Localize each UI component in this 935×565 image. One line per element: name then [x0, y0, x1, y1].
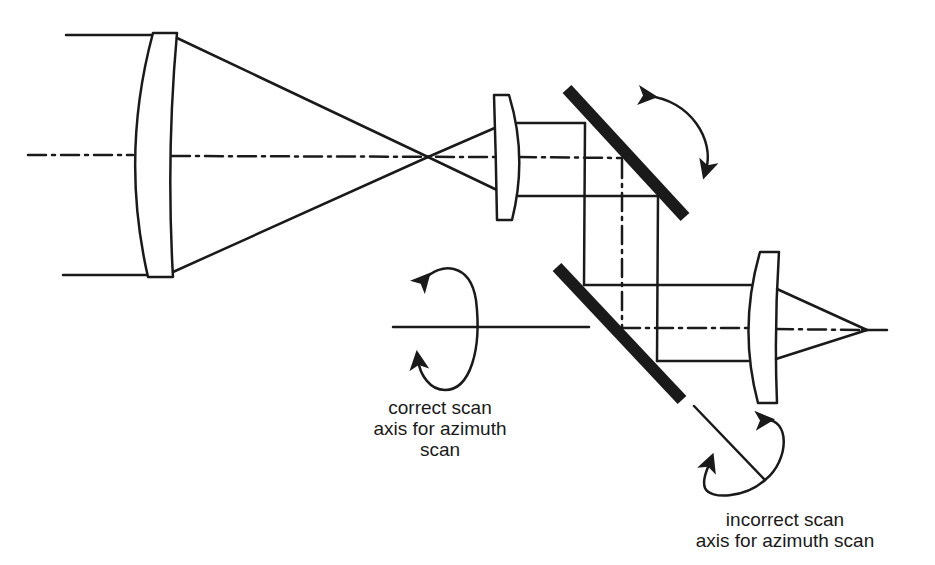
- incorrect-label-line-2: axis for azimuth scan: [660, 530, 910, 551]
- correct-label-line-2: axis for azimuth: [340, 418, 540, 439]
- incorrect-label-line-1: incorrect scan: [660, 509, 910, 530]
- optical-scan-diagram: [0, 0, 935, 565]
- incorrect-scan-label: incorrect scan axis for azimuth scan: [660, 509, 910, 551]
- incorrect-scan-axis: [694, 406, 765, 480]
- collimating-lens: [494, 95, 519, 220]
- correct-label-line-3: scan: [340, 439, 540, 460]
- focusing-lens: [748, 252, 779, 403]
- output-rays: [776, 289, 887, 359]
- correct-label-line-1: correct scan: [340, 397, 540, 418]
- correct-rotation-arrow-icon: [418, 268, 478, 390]
- mirror-tilt-arrow-icon: [648, 96, 708, 170]
- scan-mirror-2: [557, 267, 682, 400]
- correct-scan-label: correct scan axis for azimuth scan: [340, 397, 540, 460]
- objective-lens: [135, 33, 177, 277]
